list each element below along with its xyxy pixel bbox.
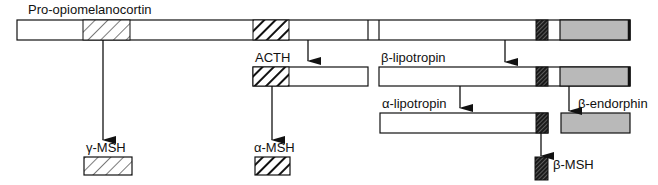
beta-msh-box (535, 157, 548, 180)
label-gamma-msh: γ-MSH (86, 141, 126, 155)
label-beta-endorphin: β-endorphin (578, 97, 648, 111)
gamma-msh-box (84, 157, 132, 175)
label-acth: ACTH (255, 51, 290, 65)
label-beta-lipotropin: β-lipotropin (381, 51, 446, 65)
acth-bar (253, 67, 368, 86)
alpha-lipotropin-bar (380, 113, 548, 133)
beta-lipotropin-bar (379, 67, 630, 86)
beta-endorphin-region (560, 20, 630, 40)
beta-msh-region (536, 20, 548, 40)
alpha-msh-region (253, 20, 289, 40)
beta-endorphin-box (561, 113, 630, 133)
gamma-msh-region (83, 20, 130, 40)
label-alpha-lipotropin: α-lipotropin (382, 97, 447, 111)
precursor-bar (17, 20, 630, 40)
label-beta-msh: β-MSH (553, 158, 594, 172)
label-pro-opiomelanocortin: Pro-opiomelanocortin (28, 3, 152, 17)
label-alpha-msh: α-MSH (254, 141, 295, 155)
alpha-msh-box (255, 157, 290, 175)
